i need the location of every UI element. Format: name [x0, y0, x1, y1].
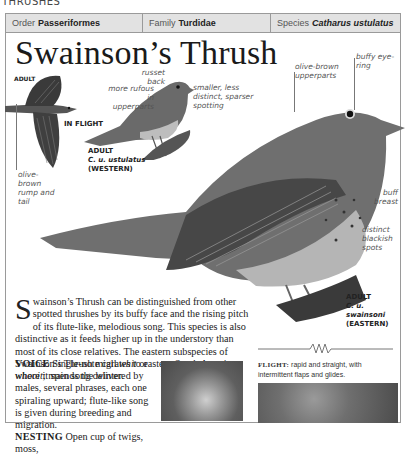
section-header: THRUSHES	[2, 0, 60, 7]
flight-adult-tag: ADULT	[14, 74, 35, 83]
nesting-section: NESTING Open cup of twigs, moss,	[15, 431, 150, 455]
family-label: Family	[149, 18, 176, 28]
voice-heading: VOICE	[15, 358, 50, 369]
dropcap: S	[15, 297, 32, 321]
label-russet-back: russet back	[135, 68, 165, 86]
taxonomy-order: OrderPasseriformes	[6, 14, 143, 32]
label-buff-breast: buff breast	[366, 188, 398, 206]
flight-description: FLIGHT: rapid and straight, with intermi…	[258, 360, 398, 379]
taxonomy-species: SpeciesCatharus ustulatus	[271, 14, 400, 32]
label-buffy-eyering: buffy eye-ring	[356, 52, 396, 70]
eastern-tag-region: (EASTERN)	[346, 320, 405, 329]
voice-call-whooit: whooit	[15, 370, 43, 381]
leader-line	[16, 104, 17, 170]
order-value: Passeriformes	[38, 18, 100, 28]
thrush-photo-habitat	[258, 383, 398, 423]
voice-text: or	[137, 358, 148, 369]
leader-line	[354, 58, 355, 110]
thrush-photo-portrait	[161, 361, 243, 421]
flight-pattern-icon	[258, 342, 393, 354]
page-title: Swainson’s Thrush	[15, 34, 278, 72]
leader-line	[294, 72, 295, 112]
label-blackish-spots: distinct blackish spots	[362, 225, 398, 252]
order-label: Order	[12, 18, 35, 28]
taxonomy-bar: OrderPasseriformes FamilyTurdidae Specie…	[5, 13, 401, 33]
voice-text: Single-note call	[52, 358, 119, 369]
eastern-tag-adult: ADULT	[346, 293, 405, 302]
species-value: Catharus ustulatus	[312, 18, 394, 28]
eastern-tag: ADULT C. u. swainsoni (EASTERN)	[346, 293, 405, 329]
eastern-tag-subspecies: C. u. swainsoni	[346, 302, 405, 320]
nesting-heading: NESTING	[15, 431, 63, 442]
taxonomy-family: FamilyTurdidae	[143, 14, 271, 32]
species-label: Species	[277, 18, 309, 28]
eastern-bird-illustration	[36, 100, 405, 325]
label-olive-upperparts: olive-brown upperparts	[295, 62, 345, 80]
flight-heading: FLIGHT:	[258, 361, 289, 369]
family-value: Turdidae	[179, 18, 216, 28]
voice-section: VOICE Single-note call whit or whooit; m…	[15, 358, 150, 456]
voice-call-whit: whit	[119, 358, 137, 369]
